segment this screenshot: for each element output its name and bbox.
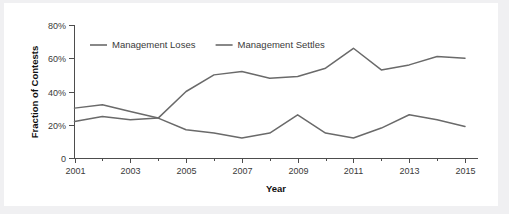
legend-label-1: Management Settles (238, 39, 325, 50)
series-line-1 (75, 48, 466, 121)
legend-label-0: Management Loses (112, 39, 196, 50)
x-tick-label: 2005 (176, 166, 196, 176)
series-group (75, 48, 466, 138)
chart-figure: Fraction of Contests 020%40%60%80% 20012… (0, 0, 509, 214)
x-tick-label: 2003 (120, 166, 140, 176)
x-tick-label: 2013 (399, 166, 419, 176)
y-axis-title: Fraction of Contests (29, 46, 40, 138)
x-tick-label: 2011 (344, 166, 363, 176)
y-tick-label: 20% (48, 121, 66, 131)
x-axis-tick-labels: 20012003200520072009201120132015 (65, 166, 475, 176)
x-tick-label: 2001 (65, 166, 85, 176)
y-tick-label: 80% (48, 21, 66, 31)
y-axis-tick-labels: 020%40%60%80% (48, 21, 66, 164)
line-chart: Fraction of Contests 020%40%60%80% 20012… (0, 0, 509, 214)
y-axis-ticks (69, 26, 75, 159)
y-axis: 020%40%60%80% (48, 21, 75, 164)
y-tick-label: 40% (48, 88, 66, 98)
chart-legend: Management LosesManagement Settles (90, 39, 325, 50)
y-tick-label: 60% (48, 54, 66, 64)
x-tick-label: 2009 (288, 166, 308, 176)
x-tick-label: 2015 (455, 166, 475, 176)
x-axis-title-label: Year (266, 183, 286, 194)
series-line-0 (75, 105, 466, 138)
x-tick-label: 2007 (232, 166, 252, 176)
y-tick-label: 0 (61, 154, 66, 164)
x-axis: 20012003200520072009201120132015 (65, 159, 478, 177)
y-axis-title-label: Fraction of Contests (29, 46, 40, 138)
